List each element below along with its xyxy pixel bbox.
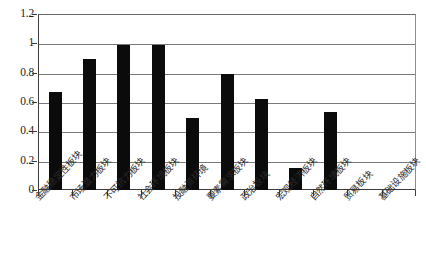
- y-axis-tick-mark: [32, 43, 37, 44]
- bars-layer: [38, 14, 416, 190]
- y-axis-tick-label: 0.6: [2, 96, 34, 108]
- y-axis-tick-label: 0.8: [2, 67, 34, 79]
- bar-chart: 00.20.40.60.811.2 金融稳定性板块市场潜力板块不可抗力板块社会环…: [0, 0, 426, 277]
- y-axis-tick-mark: [32, 14, 37, 15]
- y-axis-tick-mark: [32, 73, 37, 74]
- y-axis-tick-mark: [32, 102, 37, 103]
- y-axis-tick-mark: [32, 131, 37, 132]
- y-axis-tick-label: 0.2: [2, 155, 34, 167]
- y-axis-tick-mark: [32, 161, 37, 162]
- y-axis-tick-label: 0.4: [2, 125, 34, 137]
- y-axis-tick-label: 1: [2, 37, 34, 49]
- y-axis-tick-label: 1.2: [2, 8, 34, 20]
- x-axis-labels: 金融稳定性板块市场潜力板块不可抗力板块社会环境板块投融资环境要素需求板块政治板块…: [0, 196, 426, 277]
- y-axis-tick-label: 0: [2, 184, 34, 196]
